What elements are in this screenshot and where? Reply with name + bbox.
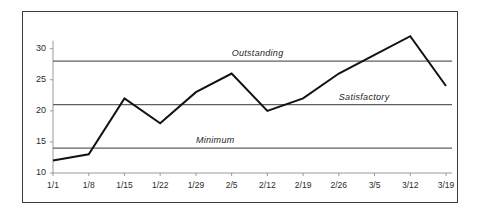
chart-figure: 1015202530 1/11/81/151/221/292/52/122/19… xyxy=(22,11,458,203)
x-axis-tick-label: 2/26 xyxy=(331,180,348,190)
x-axis-tick-label: 1/15 xyxy=(116,180,133,190)
line-chart-plot: 1015202530 1/11/81/151/221/292/52/122/19… xyxy=(23,12,459,204)
reference-lines: OutstandingSatisfactoryMinimum xyxy=(53,48,452,148)
y-axis: 1015202530 xyxy=(36,41,53,178)
reference-line-label: Outstanding xyxy=(232,48,284,58)
x-axis-tick-label: 1/22 xyxy=(152,180,169,190)
reference-line-label: Minimum xyxy=(196,135,235,145)
y-axis-tick-label: 20 xyxy=(36,105,46,115)
x-axis-tick-label: 2/5 xyxy=(226,180,238,190)
x-axis-tick-label: 1/29 xyxy=(188,180,205,190)
x-axis-tick-label: 3/12 xyxy=(402,180,419,190)
x-axis-tick-label: 2/19 xyxy=(295,180,312,190)
x-axis-tick-label: 3/5 xyxy=(369,180,381,190)
x-axis-tick-label: 1/8 xyxy=(83,180,95,190)
y-axis-tick-label: 25 xyxy=(36,74,46,84)
y-axis-tick-label: 15 xyxy=(36,136,46,146)
y-axis-tick-label: 30 xyxy=(36,43,46,53)
y-axis-tick-label: 10 xyxy=(36,167,46,177)
x-axis: 1/11/81/151/221/292/52/122/192/263/53/12… xyxy=(47,173,454,190)
x-axis-tick-label: 3/19 xyxy=(438,180,455,190)
reference-line-label: Satisfactory xyxy=(339,92,390,102)
x-axis-tick-label: 1/1 xyxy=(47,180,59,190)
x-axis-tick-label: 2/12 xyxy=(259,180,276,190)
